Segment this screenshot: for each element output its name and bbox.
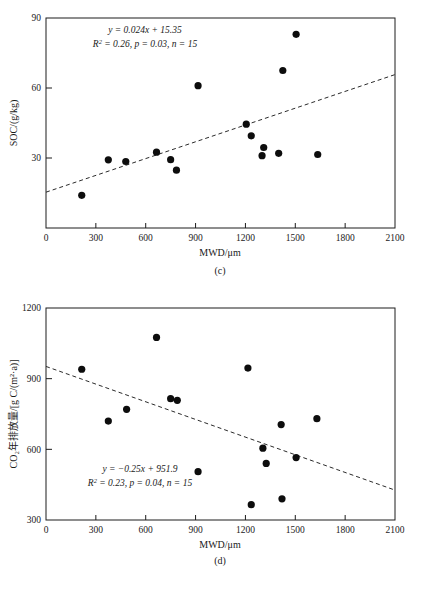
x-tick-label: 0	[44, 525, 49, 535]
panel-d-label: (d)	[214, 555, 226, 567]
panel-d-x-axis-label: MWD/μm	[199, 539, 241, 550]
regression-line	[46, 75, 395, 193]
data-point	[263, 460, 270, 467]
data-point	[275, 150, 282, 157]
panel-d-plot-frame	[46, 308, 395, 520]
data-point	[243, 121, 250, 128]
x-tick-label: 1500	[286, 233, 305, 243]
data-point	[278, 495, 285, 502]
panel-d-equation: y = −0.25x + 951.9	[101, 464, 177, 474]
x-tick-label: 1200	[236, 233, 255, 243]
regression-line	[46, 366, 395, 490]
figure-container: 306090 03006009001200150018002100 SOC/(g…	[0, 0, 439, 594]
data-point	[260, 144, 267, 151]
data-point	[244, 364, 251, 371]
data-point	[122, 158, 129, 165]
x-tick-label: 0	[44, 233, 49, 243]
panel-d-stats: R2 = 0.23, p = 0.04, n = 15	[87, 477, 193, 489]
x-tick-label: 1500	[286, 525, 305, 535]
y-tick-label: 90	[32, 13, 42, 23]
data-point	[153, 149, 160, 156]
panel-c-regression-line	[46, 75, 395, 193]
y-tick-label: 300	[27, 515, 42, 525]
data-point	[153, 334, 160, 341]
panel-c-x-axis-ticks: 03006009001200150018002100	[44, 223, 405, 243]
x-tick-label: 300	[89, 525, 104, 535]
data-point	[259, 445, 266, 452]
data-point	[279, 67, 286, 74]
x-tick-label: 600	[139, 233, 154, 243]
panel-c-y-axis-label: SOC/(g/kg)	[8, 100, 20, 147]
data-point	[248, 132, 255, 139]
panel-c-y-axis-ticks: 306090	[32, 13, 53, 163]
data-point	[194, 468, 201, 475]
data-point	[123, 406, 130, 413]
y-tick-label: 30	[32, 153, 42, 163]
panel-d-y-axis-label: CO₂年排放量/[g C/(m²·a)]	[7, 360, 20, 469]
data-point	[174, 397, 181, 404]
data-point	[105, 417, 112, 424]
x-tick-label: 2100	[386, 525, 405, 535]
data-point	[167, 395, 174, 402]
x-tick-label: 900	[188, 233, 203, 243]
y-tick-label: 900	[27, 374, 42, 384]
panel-c-x-axis-label: MWD/μm	[199, 247, 241, 258]
data-point	[278, 421, 285, 428]
panel-c-equation: y = 0.024x + 15.35	[107, 25, 182, 35]
panel-c-svg: 306090 03006009001200150018002100 SOC/(g…	[0, 0, 439, 290]
panel-c-stats: R2 = 0.26, p = 0.03, n = 15	[92, 38, 198, 50]
panel-c-plot-frame	[46, 18, 395, 228]
panel-d-svg: 3006009001200 03006009001200150018002100…	[0, 292, 439, 594]
x-tick-label: 300	[89, 233, 104, 243]
data-point	[314, 151, 321, 158]
panel-d-y-axis-ticks: 3006009001200	[22, 303, 52, 525]
y-tick-label: 1200	[22, 303, 41, 313]
data-point	[173, 167, 180, 174]
data-point	[313, 415, 320, 422]
data-point	[258, 152, 265, 159]
x-tick-label: 1800	[336, 525, 355, 535]
panel-c-label: (c)	[214, 265, 225, 277]
x-tick-label: 1200	[236, 525, 255, 535]
x-tick-label: 600	[139, 525, 154, 535]
data-point	[78, 366, 85, 373]
x-tick-label: 900	[188, 525, 203, 535]
data-point	[248, 501, 255, 508]
panel-d-regression-line	[46, 366, 395, 490]
data-point	[105, 156, 112, 163]
data-point	[194, 82, 201, 89]
y-tick-label: 60	[32, 83, 42, 93]
panel-c-data-points	[78, 31, 321, 199]
panel-c-soc-vs-mwd: 306090 03006009001200150018002100 SOC/(g…	[0, 0, 439, 290]
panel-d-x-axis-ticks: 03006009001200150018002100	[44, 515, 405, 535]
panel-d-stats-rest: = 0.23, p = 0.04, n = 15	[97, 478, 192, 488]
y-tick-label: 600	[27, 445, 42, 455]
panel-d-co2-vs-mwd: 3006009001200 03006009001200150018002100…	[0, 292, 439, 594]
data-point	[167, 156, 174, 163]
x-tick-label: 2100	[386, 233, 405, 243]
data-point	[293, 31, 300, 38]
data-point	[78, 192, 85, 199]
data-point	[293, 454, 300, 461]
x-tick-label: 1800	[336, 233, 355, 243]
panel-c-stats-rest: = 0.26, p = 0.03, n = 15	[102, 39, 197, 49]
